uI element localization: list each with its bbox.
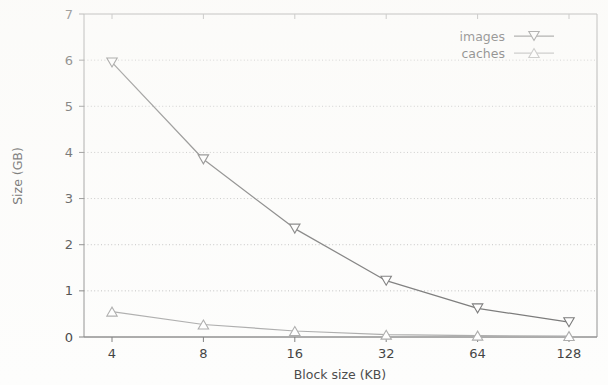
y-tick-label: 0 [65, 330, 73, 345]
y-tick-label: 7 [65, 7, 73, 22]
data-point-marker [290, 224, 300, 233]
y-tick-label: 5 [65, 99, 73, 114]
chart-figure: 76543210 48163264128 Size (GB) Block siz… [0, 0, 608, 385]
y-tick-label: 1 [65, 283, 73, 298]
series-images [107, 58, 574, 327]
x-tick-label: 8 [199, 346, 207, 361]
line-chart: 76543210 48163264128 Size (GB) Block siz… [0, 0, 608, 385]
x-axis: 48163264128 [108, 14, 582, 361]
data-point-marker [381, 276, 391, 285]
legend-label-images: images [460, 29, 505, 44]
x-tick-label: 4 [108, 346, 116, 361]
x-tick-label: 32 [378, 346, 395, 361]
chart-legend: imagescaches [460, 29, 554, 61]
legend-label-caches: caches [461, 46, 505, 61]
y-tick-label: 2 [65, 237, 73, 252]
data-series-layer [107, 58, 574, 341]
y-axis: 76543210 [65, 7, 84, 345]
plot-frame [84, 14, 597, 337]
x-axis-title: Block size (KB) [294, 367, 387, 382]
y-tick-label: 6 [65, 53, 73, 68]
x-tick-label: 16 [287, 346, 304, 361]
y-axis-title: Size (GB) [10, 147, 25, 205]
gridlines [84, 60, 597, 337]
x-tick-label: 128 [557, 346, 582, 361]
y-tick-label: 3 [65, 191, 73, 206]
series-line [112, 312, 569, 337]
series-line [112, 62, 569, 322]
y-tick-label: 4 [65, 145, 73, 160]
x-tick-label: 64 [469, 346, 486, 361]
